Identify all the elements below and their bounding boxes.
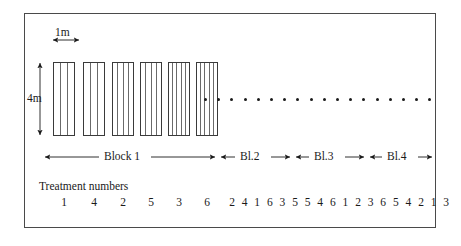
- continuation-dot: [323, 98, 326, 101]
- continuation-dot: [283, 98, 286, 101]
- continuation-dot: [204, 98, 207, 101]
- treatment-number: 4: [87, 197, 101, 209]
- plot-height-label: 4m: [27, 93, 42, 105]
- plot-row: [84, 63, 91, 135]
- treatment-numbers-caption: Treatment numbers: [39, 181, 128, 193]
- treatment-number: 3: [172, 197, 186, 209]
- continuation-dot: [336, 98, 339, 101]
- treatment-number: 1: [57, 197, 71, 209]
- treatment-number: 6: [200, 197, 214, 209]
- plot-row: [91, 63, 98, 135]
- continuation-dot: [310, 98, 313, 101]
- continuation-dot: [296, 98, 299, 101]
- continuation-dot: [376, 98, 379, 101]
- plot-row: [186, 63, 189, 135]
- field-layout-diagram: 1m 4m Block 1Bl.2Bl.3Bl.4 Treatment numb…: [0, 0, 461, 246]
- continuation-dot: [362, 98, 365, 101]
- plot-rectangle: [112, 62, 134, 136]
- plot-row: [61, 63, 68, 135]
- treatment-number: 3: [439, 197, 453, 209]
- plot-width-label: 1m: [55, 27, 70, 39]
- plot-rectangle: [83, 62, 105, 136]
- treatment-number: 5: [144, 197, 158, 209]
- block-label: Bl.2: [240, 151, 260, 163]
- continuation-dot: [402, 98, 405, 101]
- plot-rectangle: [140, 62, 162, 136]
- plot-row: [98, 63, 104, 135]
- block-label: Bl.3: [314, 151, 334, 163]
- plot-row: [54, 63, 61, 135]
- plot-row: [157, 63, 161, 135]
- plot-rectangle: [53, 62, 75, 136]
- continuation-dot: [389, 98, 392, 101]
- continuation-dot: [230, 98, 233, 101]
- continuation-dot: [415, 98, 418, 101]
- continuation-dot: [428, 98, 431, 101]
- continuation-dot: [270, 98, 273, 101]
- block-label: Block 1: [104, 151, 140, 163]
- continuation-dot: [217, 98, 220, 101]
- treatment-number: 2: [116, 197, 130, 209]
- block-label: Bl.4: [387, 151, 407, 163]
- continuation-dots: [204, 96, 436, 104]
- continuation-dot: [244, 98, 247, 101]
- plot-rectangle: [168, 62, 190, 136]
- continuation-dot: [349, 98, 352, 101]
- plot-row: [129, 63, 133, 135]
- continuation-dot: [257, 98, 260, 101]
- plot-row: [68, 63, 74, 135]
